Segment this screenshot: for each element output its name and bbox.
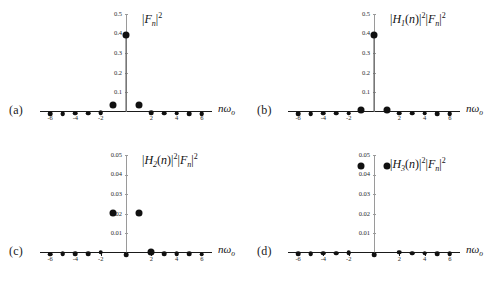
y-tick-c xyxy=(125,175,128,176)
data-point xyxy=(410,111,415,116)
data-point xyxy=(346,251,351,256)
data-point xyxy=(435,251,440,256)
data-point xyxy=(86,111,91,116)
y-tick-label-b: 0.3 xyxy=(348,50,370,57)
data-point xyxy=(410,251,415,256)
y-tick-d xyxy=(373,194,376,195)
plot-area-a: 0.10.20.30.40.5-6-4-2246nωo|Fn|2 xyxy=(40,14,212,112)
y-tick-label-c: 0.05 xyxy=(100,152,122,159)
stem-line-b xyxy=(374,35,375,112)
y-tick-label-c: 0.01 xyxy=(100,230,122,237)
data-point xyxy=(321,111,326,116)
y-tick-d xyxy=(373,155,376,156)
x-tick-label-b: -4 xyxy=(314,115,332,122)
stem-line-c xyxy=(113,213,114,253)
x-tick-label-c: -4 xyxy=(66,256,84,263)
x-tick-label-d: 4 xyxy=(416,256,434,263)
data-point xyxy=(296,251,301,256)
x-tick-label-a: 2 xyxy=(142,115,160,122)
stem-line-d xyxy=(386,166,387,253)
y-tick-label-d: 0.04 xyxy=(348,171,370,178)
x-tick-label-c: -2 xyxy=(92,256,110,263)
x-tick-label-b: 6 xyxy=(441,115,459,122)
x-tick-label-c: 4 xyxy=(168,256,186,263)
plot-title-b: |H1(n)|2|Fn|2 xyxy=(390,12,446,28)
plot-area-b: 0.10.20.30.40.5-6-4-2246nωo|H1(n)|2|Fn|2 xyxy=(288,14,460,112)
data-point xyxy=(358,163,365,170)
x-tick-label-b: -2 xyxy=(340,115,358,122)
y-tick-label-d: 0.05 xyxy=(348,152,370,159)
data-point xyxy=(422,111,427,116)
y-tick-label-c: 0.04 xyxy=(100,171,122,178)
plot-area-c: 0.010.020.030.040.05-6-4-2246nωo|H2(n)|2… xyxy=(40,155,212,253)
x-tick-label-d: 2 xyxy=(390,256,408,263)
data-point xyxy=(86,251,91,256)
data-point xyxy=(162,251,167,256)
y-tick-c xyxy=(125,155,128,156)
y-tick-label-a: 0.4 xyxy=(100,30,122,37)
data-point xyxy=(123,32,130,39)
data-point xyxy=(73,251,78,256)
data-point xyxy=(448,251,453,256)
data-point xyxy=(358,106,365,113)
data-point xyxy=(187,111,192,116)
y-tick-d xyxy=(373,214,376,215)
y-tick-label-d: 0.02 xyxy=(348,211,370,218)
x-tick-label-d: -4 xyxy=(314,256,332,263)
y-tick-d xyxy=(373,233,376,234)
y-axis-d xyxy=(374,155,375,253)
x-axis-title-d: nωo xyxy=(466,244,483,258)
data-point xyxy=(48,111,53,116)
data-point xyxy=(397,250,402,255)
x-tick-label-d: -2 xyxy=(340,256,358,263)
data-point xyxy=(60,252,65,257)
y-tick-label-a: 0.2 xyxy=(100,70,122,77)
x-tick-label-c: 2 xyxy=(142,256,160,263)
x-tick-label-d: -6 xyxy=(289,256,307,263)
x-tick-label-a: 4 xyxy=(168,115,186,122)
y-tick-label-a: 0.1 xyxy=(100,89,122,96)
y-tick-label-b: 0.1 xyxy=(348,89,370,96)
panel-label-d: (d) xyxy=(257,244,272,259)
data-point xyxy=(174,251,179,256)
data-point xyxy=(48,252,53,257)
x-axis-title-a: nωo xyxy=(218,103,235,117)
panel-c: (c)0.010.020.030.040.05-6-4-2246nωo|H2(n… xyxy=(0,141,248,282)
data-point xyxy=(383,163,390,170)
data-point xyxy=(383,106,390,113)
data-point xyxy=(371,32,378,39)
data-point xyxy=(98,250,103,255)
y-tick-c xyxy=(125,194,128,195)
data-point xyxy=(334,251,339,256)
data-point xyxy=(135,210,142,217)
x-tick-label-a: -4 xyxy=(66,115,84,122)
data-point xyxy=(200,111,205,116)
y-tick-label-a: 0.5 xyxy=(100,11,122,18)
y-tick-label-d: 0.03 xyxy=(348,191,370,198)
y-tick-label-d: 0.01 xyxy=(348,230,370,237)
plot-title-c: |H2(n)|2|Fn|2 xyxy=(142,153,198,169)
figure-container: (a)0.10.20.30.40.5-6-4-2246nωo|Fn|2 (b)0… xyxy=(0,0,496,282)
data-point xyxy=(148,249,155,256)
x-tick-label-d: 6 xyxy=(441,256,459,263)
y-tick-d xyxy=(373,175,376,176)
plot-title-a: |Fn|2 xyxy=(142,12,162,28)
y-tick-a xyxy=(125,14,128,15)
data-point xyxy=(73,111,78,116)
data-point xyxy=(200,252,205,257)
plot-area-d: 0.010.020.030.040.05-6-4-2246nωo|H3(n)|2… xyxy=(288,155,460,253)
y-tick-label-a: 0.3 xyxy=(100,50,122,57)
data-point xyxy=(110,102,117,109)
panel-label-c: (c) xyxy=(9,244,23,259)
panel-label-a: (a) xyxy=(9,103,23,118)
panel-d: (d)0.010.020.030.040.05-6-4-2246nωo|H3(n… xyxy=(248,141,496,282)
data-point xyxy=(308,111,313,116)
data-point xyxy=(397,111,402,116)
x-tick-label-c: -6 xyxy=(41,256,59,263)
data-point xyxy=(296,111,301,116)
data-point xyxy=(187,252,192,257)
data-point xyxy=(135,102,142,109)
y-tick-label-b: 0.5 xyxy=(348,11,370,18)
data-point xyxy=(346,111,351,116)
y-tick-c xyxy=(125,233,128,234)
